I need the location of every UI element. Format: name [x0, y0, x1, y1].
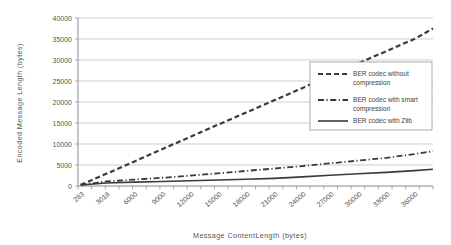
- x-axis-title: Message ContentLength (bytes): [193, 231, 307, 240]
- x-tick-label: 21000: [259, 190, 278, 208]
- y-axis-title: Encoded Message Length (bytes): [15, 43, 24, 162]
- legend-label-0-line2: compression: [353, 79, 391, 87]
- y-tick-label: 10000: [53, 141, 73, 148]
- x-tick-label: 27000: [315, 190, 334, 208]
- x-tick-label: 36000: [400, 190, 419, 208]
- x-tick-label: 33000: [372, 190, 391, 208]
- x-axis-ticks: [78, 186, 433, 190]
- legend-label-0: BER codec without: [353, 70, 409, 77]
- y-tick-label: 20000: [53, 99, 73, 106]
- y-tick-label: 5000: [56, 162, 72, 169]
- x-tick-label: 6000: [122, 190, 139, 205]
- x-tick-label: 15000: [203, 190, 222, 208]
- legend-label-1-line2: compression: [353, 105, 391, 113]
- x-tick-label: 283: [72, 190, 86, 203]
- y-tick-label: 35000: [53, 36, 73, 43]
- series-line-1: [81, 151, 433, 185]
- x-tick-label: 18000: [231, 190, 250, 208]
- legend: BER codec withoutcompressionBER codec wi…: [310, 62, 432, 130]
- x-tick-label: 9000: [150, 190, 167, 205]
- y-tick-label: 40000: [53, 15, 73, 22]
- x-tick-label: 24000: [287, 190, 306, 208]
- x-tick-label: 30000: [343, 190, 362, 208]
- y-tick-label: 15000: [53, 120, 73, 127]
- legend-label-1: BER codec with smart: [353, 96, 418, 103]
- y-tick-label: 30000: [53, 57, 73, 64]
- x-tick-label: 3018: [94, 190, 111, 205]
- x-axis-tick-labels: 2833018600090001200015000180002100024000…: [72, 190, 419, 208]
- line-chart: 0500010000150002000025000300003500040000…: [0, 0, 451, 245]
- legend-label-2: BER codec with Zlib: [353, 117, 412, 124]
- y-tick-label: 25000: [53, 78, 73, 85]
- series-line-2: [81, 169, 433, 185]
- chart-container: 0500010000150002000025000300003500040000…: [0, 0, 451, 245]
- y-tick-label: 0: [68, 183, 72, 190]
- x-tick-label: 12000: [175, 190, 194, 208]
- y-axis-tick-labels: 0500010000150002000025000300003500040000: [53, 15, 73, 190]
